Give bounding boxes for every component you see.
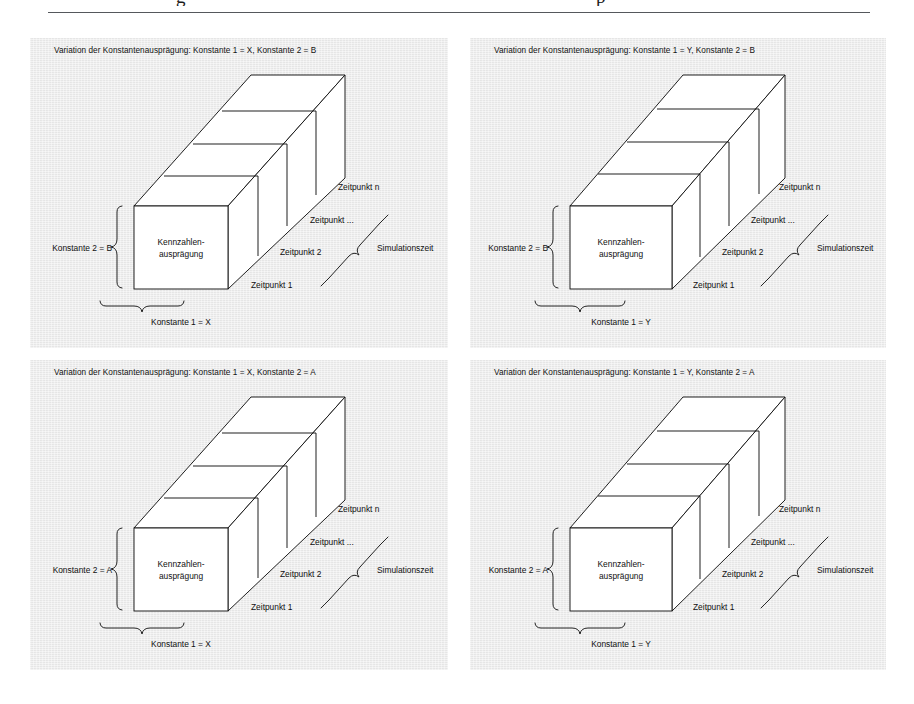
slab-label-4: Zeitpunkt n bbox=[338, 504, 380, 514]
panel-diagram: Kennzahlen- ausprägung Konstante 2 = B K… bbox=[470, 38, 886, 348]
panel-bottom-left: Variation der Konstantenausprägung: Kons… bbox=[30, 360, 448, 670]
bottom-brace bbox=[100, 623, 184, 634]
bottom-brace-label: Konstante 1 = X bbox=[151, 317, 211, 327]
bottom-brace-label: Konstante 1 = Y bbox=[591, 317, 651, 327]
slab-label-1: Zeitpunkt 1 bbox=[693, 280, 735, 290]
left-brace bbox=[111, 528, 122, 610]
left-brace-label: Konstante 2 = A bbox=[489, 565, 549, 575]
isometric-box-diagram: Kennzahlen- ausprägung Konstante 2 = A K… bbox=[470, 360, 886, 670]
slab-label-4: Zeitpunkt n bbox=[338, 182, 380, 192]
bottom-brace bbox=[535, 623, 625, 634]
front-face-label-line2: ausprägung bbox=[159, 571, 204, 581]
front-face-label-line2: ausprägung bbox=[599, 571, 644, 581]
panel-bottom-right: Variation der Konstantenausprägung: Kons… bbox=[470, 360, 886, 670]
left-brace-label: Konstante 2 = B bbox=[52, 243, 112, 253]
front-face-label-line1: Kennzahlen- bbox=[597, 559, 644, 569]
left-brace bbox=[547, 206, 558, 288]
slab-label-4: Zeitpunkt n bbox=[779, 182, 821, 192]
panel-diagram: Kennzahlen- ausprägung Konstante 2 = A K… bbox=[30, 360, 448, 670]
isometric-box-diagram: Kennzahlen- ausprägung Konstante 2 = B K… bbox=[30, 38, 448, 348]
right-brace-label: Simulationszeit bbox=[377, 243, 434, 253]
bottom-brace bbox=[100, 301, 184, 312]
bottom-brace-label: Konstante 1 = X bbox=[151, 639, 211, 649]
left-brace-label: Konstante 2 = B bbox=[488, 243, 548, 253]
front-face-label-line1: Kennzahlen- bbox=[597, 237, 644, 247]
front-face-label-line1: Kennzahlen- bbox=[157, 559, 204, 569]
slab-label-3: Zeitpunkt ... bbox=[310, 537, 354, 547]
slab-label-1: Zeitpunkt 1 bbox=[693, 602, 735, 612]
panel-top-right: Variation der Konstantenausprägung: Kons… bbox=[470, 38, 886, 348]
left-brace bbox=[547, 528, 558, 610]
right-brace-label: Simulationszeit bbox=[817, 243, 874, 253]
slab-label-1: Zeitpunkt 1 bbox=[251, 280, 293, 290]
slab-label-3: Zeitpunkt ... bbox=[310, 215, 354, 225]
panel-top-left: Variation der Konstantenausprägung: Kons… bbox=[30, 38, 448, 348]
isometric-box-diagram: Kennzahlen- ausprägung Konstante 2 = B K… bbox=[470, 38, 886, 348]
panel-diagram: Kennzahlen- ausprägung Konstante 2 = B K… bbox=[30, 38, 448, 348]
isometric-box-diagram: Kennzahlen- ausprägung Konstante 2 = A K… bbox=[30, 360, 448, 670]
right-brace-label: Simulationszeit bbox=[377, 565, 434, 575]
panel-diagram: Kennzahlen- ausprägung Konstante 2 = A K… bbox=[470, 360, 886, 670]
right-brace-label: Simulationszeit bbox=[817, 565, 874, 575]
box-front-face bbox=[134, 206, 228, 289]
slab-label-4: Zeitpunkt n bbox=[779, 504, 821, 514]
box-front-face bbox=[570, 528, 672, 611]
left-brace-label: Konstante 2 = A bbox=[53, 565, 113, 575]
front-face-label-line2: ausprägung bbox=[599, 249, 644, 259]
slab-label-1: Zeitpunkt 1 bbox=[251, 602, 293, 612]
figure-grid: Variation der Konstantenausprägung: Kons… bbox=[0, 0, 914, 704]
slab-label-2: Zeitpunkt 2 bbox=[722, 247, 764, 257]
front-face-label-line1: Kennzahlen- bbox=[157, 237, 204, 247]
box-front-face bbox=[134, 528, 228, 611]
slab-label-3: Zeitpunkt ... bbox=[751, 537, 795, 547]
bottom-brace-label: Konstante 1 = Y bbox=[591, 639, 651, 649]
slab-label-2: Zeitpunkt 2 bbox=[722, 569, 764, 579]
slab-label-3: Zeitpunkt ... bbox=[751, 215, 795, 225]
front-face-label-line2: ausprägung bbox=[159, 249, 204, 259]
slab-label-2: Zeitpunkt 2 bbox=[280, 247, 322, 257]
left-brace bbox=[111, 206, 122, 288]
box-front-face bbox=[570, 206, 672, 289]
slab-label-2: Zeitpunkt 2 bbox=[280, 569, 322, 579]
bottom-brace bbox=[535, 301, 625, 312]
